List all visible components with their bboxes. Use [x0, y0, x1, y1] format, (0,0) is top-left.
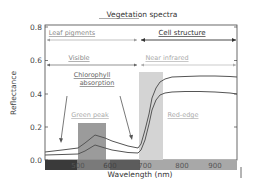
y-axis-label: Reflectance — [9, 71, 18, 115]
annotation-red-edge: Red-edge — [168, 111, 199, 119]
y-tick-0.2: 0.2 — [30, 123, 42, 132]
green-peak-band — [78, 123, 106, 160]
x-tick-700: 700 — [138, 162, 151, 170]
annotation-chlorophyll-absorption: Chlorophyll — [74, 71, 111, 79]
annotation-leaf-pigments: Leaf pigments — [49, 29, 96, 37]
y-tick-0.8: 0.8 — [30, 23, 42, 32]
annotation-near-infrared: Near infrared — [145, 54, 188, 62]
y-tick-0.6: 0.6 — [30, 56, 42, 65]
y-tick-0.4: 0.4 — [30, 90, 42, 99]
y-tick-0.0: 0.0 — [30, 156, 42, 165]
x-tick-600: 600 — [103, 162, 116, 170]
x-tick-900: 900 — [208, 162, 221, 170]
chart-title: Vegetation spectra — [107, 10, 178, 19]
x-tick-500: 500 — [71, 162, 84, 170]
annotation-green-peak: Green peak — [71, 111, 109, 119]
x-tick-800: 800 — [175, 162, 188, 170]
annotation-chlorophyll-absorption-2: absorption — [80, 79, 115, 87]
annotation-cell-structure: Cell structure — [158, 29, 205, 37]
x-axis-label: Wavelength (nm) — [108, 170, 173, 179]
vegetation-spectra-chart: Vegetation spectra Reflectance Leaf pigm… — [0, 0, 253, 195]
annotation-visible: Visible — [68, 54, 89, 62]
